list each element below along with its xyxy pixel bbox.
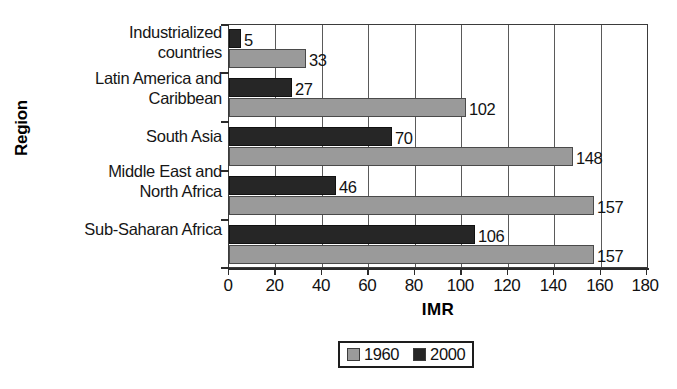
bar-latin-america-and-caribbean-2000: [229, 78, 292, 97]
bar-south-asia-1960: [229, 147, 573, 166]
x-axis-line: [228, 268, 649, 270]
category-label-sub-saharan-africa: Sub-Saharan Africa: [22, 219, 222, 239]
bar-value-middle-east-and-north-africa-1960: 157: [597, 199, 623, 215]
gridline-160: [601, 25, 602, 267]
y-axis-tick-4: [221, 219, 229, 221]
x-axis-tick-140: [553, 268, 554, 275]
x-axis-label-160: 160: [578, 276, 622, 296]
category-label-industrialized-countries: Industrialized countries: [22, 22, 222, 62]
bar-sub-saharan-africa-1960: [229, 245, 594, 264]
category-label-line2: countries: [22, 42, 222, 62]
gridline-120: [508, 25, 509, 267]
x-axis-label-180: 180: [623, 276, 667, 296]
x-axis-label-140: 140: [531, 276, 575, 296]
plot-area: 5 33 27 102 70 148 46 157 106 157: [228, 24, 648, 268]
x-axis-label-0: 0: [206, 276, 250, 296]
legend-swatch-icon-2000: [413, 348, 426, 361]
bar-south-asia-2000: [229, 127, 392, 146]
y-axis-tick-1: [221, 72, 229, 74]
bar-value-industrialized-countries-1960: 33: [309, 52, 327, 68]
bar-value-sub-saharan-africa-2000: 106: [478, 228, 504, 244]
y-axis-tick-2: [221, 121, 229, 123]
x-axis-title: IMR: [228, 300, 648, 320]
bar-middle-east-and-north-africa-1960: [229, 196, 594, 215]
x-axis-tick-120: [507, 268, 508, 275]
legend-item-1960: 1960: [347, 346, 399, 362]
category-label-line1: Middle East and: [22, 161, 222, 181]
x-axis-label-120: 120: [485, 276, 529, 296]
bar-sub-saharan-africa-2000: [229, 225, 475, 244]
bar-value-south-asia-2000: 70: [395, 130, 413, 146]
x-axis-label-40: 40: [299, 276, 343, 296]
bar-value-south-asia-1960: 148: [576, 150, 602, 166]
bar-value-latin-america-and-caribbean-2000: 27: [295, 81, 313, 97]
category-label-line1: Industrialized: [22, 22, 222, 42]
bar-value-latin-america-and-caribbean-1960: 102: [469, 101, 495, 117]
legend-swatch-icon-1960: [347, 348, 360, 361]
bar-value-industrialized-countries-2000: 5: [244, 32, 253, 48]
gridline-140: [554, 25, 555, 267]
y-axis-tick-3: [221, 170, 229, 172]
category-label-line2: North Africa: [22, 181, 222, 201]
bar-industrialized-countries-2000: [229, 29, 241, 48]
bar-value-sub-saharan-africa-1960: 157: [597, 248, 623, 264]
x-axis-label-100: 100: [438, 276, 482, 296]
chart-legend: 1960 2000: [338, 341, 474, 368]
category-label-line1: Sub-Saharan Africa: [22, 219, 222, 239]
category-label-line1: Latin America and: [22, 68, 222, 88]
x-axis-label-20: 20: [252, 276, 296, 296]
x-axis-tick-100: [460, 268, 461, 275]
chart-screenshot: Region Industrialized countries Latin Am…: [0, 0, 677, 389]
category-label-line2: Caribbean: [22, 88, 222, 108]
x-axis-label-80: 80: [392, 276, 436, 296]
x-axis-tick-80: [414, 268, 415, 275]
x-axis-tick-180: [646, 268, 647, 275]
x-axis-label-60: 60: [345, 276, 389, 296]
category-label-middle-east-and-north-africa: Middle East and North Africa: [22, 161, 222, 201]
x-axis-tick-20: [274, 268, 275, 275]
x-axis-tick-160: [600, 268, 601, 275]
y-axis-tick-0: [221, 24, 229, 26]
legend-label-2000: 2000: [430, 346, 465, 362]
category-label-group: Industrialized countries Latin America a…: [22, 24, 222, 268]
bar-value-middle-east-and-north-africa-2000: 46: [339, 179, 357, 195]
x-axis-tick-40: [321, 268, 322, 275]
category-label-latin-america-and-caribbean: Latin America and Caribbean: [22, 68, 222, 108]
bar-middle-east-and-north-africa-2000: [229, 176, 336, 195]
legend-label-1960: 1960: [364, 346, 399, 362]
legend-item-2000: 2000: [413, 346, 465, 362]
bar-latin-america-and-caribbean-1960: [229, 98, 466, 117]
category-label-line1: South Asia: [22, 126, 222, 146]
x-axis-tick-0: [228, 268, 229, 275]
category-label-south-asia: South Asia: [22, 126, 222, 146]
x-axis-tick-60: [367, 268, 368, 275]
bar-industrialized-countries-1960: [229, 49, 306, 68]
